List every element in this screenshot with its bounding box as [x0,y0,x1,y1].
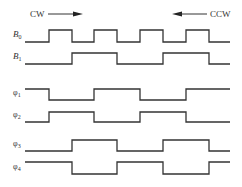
ccw-indicator: CCW [172,9,231,19]
cw-label: CW [30,9,45,19]
waveform-line [25,53,230,64]
waveform-line [25,112,230,122]
signal-b0: B0 [13,29,230,42]
signal-phi1: φ1 [13,88,230,100]
signal-b1: B1 [13,51,230,64]
waveform-line [25,162,230,174]
cw-indicator: CW [30,9,83,19]
cw-arrowhead-icon [73,12,83,17]
signal-label: φ3 [13,139,21,149]
timing-diagram: CW CCW B0B1φ1φ2φ3φ4 [0,0,242,187]
signal-label: φ2 [13,110,21,120]
signal-phi4: φ4 [13,162,230,174]
signal-label: B0 [13,29,22,40]
waveform-line [25,30,230,42]
signal-phi2: φ2 [13,110,230,122]
waveform-line [25,140,230,151]
ccw-label: CCW [210,9,231,19]
signal-waveforms: B0B1φ1φ2φ3φ4 [13,29,230,174]
waveform-line [25,89,230,100]
signal-label: φ4 [13,162,21,172]
signal-label: B1 [13,51,22,62]
signal-label: φ1 [13,88,21,98]
signal-phi3: φ3 [13,139,230,151]
